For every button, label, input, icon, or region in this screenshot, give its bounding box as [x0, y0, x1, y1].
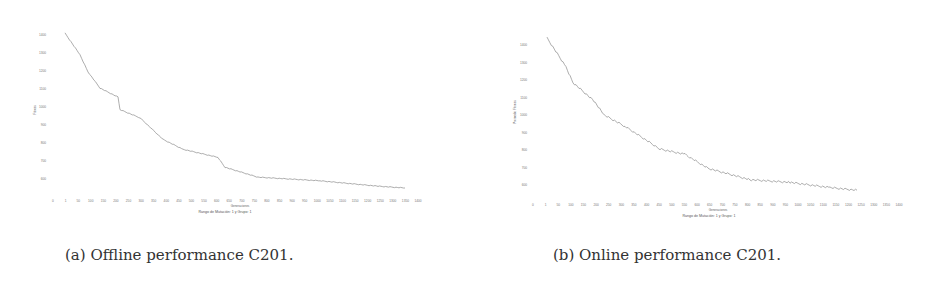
- x-tick-label: 1150: [352, 199, 359, 203]
- y-tick-label: 900: [41, 123, 47, 127]
- x-tick-label: 200: [593, 203, 599, 207]
- x-tick-label: 450: [657, 203, 663, 207]
- x-tick-label: 1100: [339, 199, 346, 203]
- x-tick-label: 950: [783, 203, 789, 207]
- x-tick-label: 250: [126, 199, 132, 203]
- y-tick-label: 600: [41, 177, 47, 181]
- x-axis-title: Generaciones: [709, 208, 728, 212]
- x-tick-label: 500: [189, 199, 195, 203]
- x-tick-label: 950: [302, 199, 308, 203]
- x-tick-label: 300: [619, 203, 625, 207]
- y-tick-label: 700: [522, 166, 528, 170]
- x-tick-label: 300: [138, 199, 144, 203]
- chart-online-performance: 1400130012001100100090080070060001501001…: [466, 0, 932, 284]
- x-tick-label: 1350: [883, 203, 890, 207]
- x-tick-label: 1000: [314, 199, 321, 203]
- x-tick-label: 1050: [807, 203, 814, 207]
- x-tick-label: 1400: [414, 199, 421, 203]
- y-tick-label: 1200: [39, 69, 46, 73]
- caption-offline: (a) Offline performance C201.: [65, 246, 293, 264]
- x-tick-label: 800: [745, 203, 751, 207]
- x-tick-label: 0: [532, 203, 534, 207]
- x-tick-label: 350: [631, 203, 637, 207]
- y-tick-label: 800: [522, 148, 528, 152]
- x-axis-title: Generaciones: [231, 204, 250, 208]
- x-tick-label: 750: [252, 199, 258, 203]
- x-tick-label: 800: [264, 199, 270, 203]
- x-tick-label: 1100: [820, 203, 827, 207]
- x-tick-label: 400: [644, 203, 650, 207]
- y-tick-label: 1000: [520, 113, 527, 117]
- x-tick-label: 1350: [402, 199, 409, 203]
- x-tick-label: 450: [176, 199, 182, 203]
- y-tick-label: 1300: [39, 51, 46, 55]
- x-tick-label: 1: [545, 203, 547, 207]
- x-tick-label: 150: [581, 203, 587, 207]
- x-tick-label: 1: [65, 199, 67, 203]
- y-tick-label: 1100: [520, 96, 527, 100]
- offline-line-chart: 1400130012001100100090080070060001501001…: [0, 0, 466, 240]
- y-tick-label: 800: [41, 141, 47, 145]
- x-tick-label: 700: [239, 199, 245, 203]
- x-tick-label: 1050: [326, 199, 333, 203]
- series-line: [65, 33, 405, 188]
- x-tick-label: 900: [770, 203, 776, 207]
- x-tick-label: 550: [201, 199, 207, 203]
- x-tick-label: 1250: [858, 203, 865, 207]
- x-tick-label: 550: [682, 203, 688, 207]
- y-tick-label: 1300: [520, 61, 527, 65]
- y-tick-label: 1400: [520, 43, 527, 47]
- legend: Rango de Mutación: 1 y Grupo: 1: [199, 210, 252, 214]
- x-tick-label: 250: [606, 203, 612, 207]
- x-tick-label: 500: [669, 203, 675, 207]
- legend: Rango de Mutación: 1 y Grupo: 1: [683, 214, 736, 218]
- x-tick-label: 100: [88, 199, 94, 203]
- y-tick-label: 900: [522, 131, 528, 135]
- y-tick-label: 1000: [39, 105, 46, 109]
- x-tick-label: 1250: [377, 199, 384, 203]
- y-tick-label: 1400: [39, 33, 46, 37]
- x-tick-label: 1200: [845, 203, 852, 207]
- x-tick-label: 350: [151, 199, 157, 203]
- x-tick-label: 900: [289, 199, 295, 203]
- x-tick-label: 1000: [794, 203, 801, 207]
- x-tick-label: 200: [113, 199, 119, 203]
- y-tick-label: 1200: [520, 78, 527, 82]
- x-tick-label: 1150: [832, 203, 839, 207]
- x-tick-label: 50: [556, 203, 560, 207]
- x-tick-label: 750: [732, 203, 738, 207]
- caption-online: (b) Online performance C201.: [553, 246, 781, 264]
- x-tick-label: 100: [568, 203, 574, 207]
- series-line: [547, 37, 857, 190]
- y-tick-label: 600: [522, 183, 528, 187]
- x-tick-label: 600: [214, 199, 220, 203]
- x-tick-label: 1300: [389, 199, 396, 203]
- y-axis-title: Fitness: [33, 105, 37, 115]
- x-tick-label: 400: [164, 199, 170, 203]
- x-tick-label: 1200: [364, 199, 371, 203]
- y-axis-title: Promedio Fitness: [513, 100, 517, 124]
- x-tick-label: 650: [227, 199, 233, 203]
- x-tick-label: 0: [52, 199, 54, 203]
- x-tick-label: 1400: [895, 203, 902, 207]
- x-tick-label: 850: [277, 199, 283, 203]
- x-tick-label: 600: [694, 203, 700, 207]
- x-tick-label: 700: [720, 203, 726, 207]
- x-tick-label: 150: [101, 199, 107, 203]
- chart-offline-performance: 1400130012001100100090080070060001501001…: [0, 0, 466, 284]
- y-tick-label: 700: [41, 159, 47, 163]
- x-tick-label: 50: [76, 199, 80, 203]
- online-line-chart: 1400130012001100100090080070060001501001…: [466, 0, 932, 240]
- y-tick-label: 1100: [39, 87, 46, 91]
- x-tick-label: 850: [758, 203, 764, 207]
- x-tick-label: 1300: [870, 203, 877, 207]
- x-tick-label: 650: [707, 203, 713, 207]
